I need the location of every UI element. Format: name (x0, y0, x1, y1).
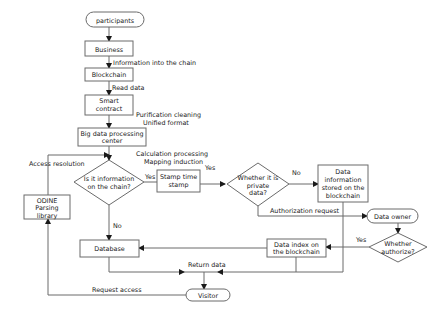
smart-contract-node: Smart contract (85, 95, 133, 115)
data-index-node: Data index on the blockchain (267, 239, 326, 257)
yes-onchain-label: Yes (144, 173, 156, 181)
odine-node: ODINE Parsing library (24, 195, 70, 220)
return-data-label: Return data (188, 261, 226, 269)
yes-stamp-label: Yes (204, 164, 216, 172)
visitor-label: Visitor (198, 292, 219, 300)
authorize-decision: Whether authorize? (369, 233, 427, 262)
smart-contract-label-2: contract (96, 105, 123, 113)
flowchart: participants Business Information into t… (0, 0, 446, 321)
smart-contract-label-1: Smart (99, 97, 119, 105)
odine-label-3: library (37, 212, 58, 220)
purification-label-1: Purification cleaning (136, 111, 201, 119)
blockchain-label: Blockchain (92, 71, 127, 79)
calculation-label-1: Calculation processing (136, 150, 208, 158)
info-into-chain-label: Information into the chain (113, 59, 196, 67)
stored-label-1: Data (335, 168, 350, 176)
calculation-label-2: Mapping induction (144, 158, 203, 166)
business-node: Business (85, 41, 133, 56)
stamp-label-2: stamp (168, 181, 188, 189)
read-data-label: Read data (112, 84, 145, 92)
access-resolution-label: Access resolution (29, 160, 85, 168)
arrow-database-return (109, 257, 184, 272)
stored-node: Data information stored on the blockchai… (318, 165, 368, 202)
participants-node: participants (86, 12, 144, 27)
no-private-label: No (292, 169, 301, 177)
database-label: Database (94, 245, 125, 253)
authorization-request-label: Authorization request (270, 207, 340, 215)
stored-label-3: stored on the (322, 184, 365, 192)
business-label: Business (95, 46, 124, 54)
data-index-label-2: the blockchain (273, 248, 320, 256)
is-on-chain-label-1: Is it information (84, 175, 134, 183)
is-on-chain-label-2: on the chain? (87, 183, 130, 191)
no-onchain-label: No (113, 222, 122, 230)
visitor-node: Visitor (186, 289, 230, 301)
is-private-decision: Whether it is private data? (227, 163, 289, 206)
participants-label: participants (96, 17, 135, 25)
stamp-node: Stamp time stamp (157, 170, 200, 192)
big-data-node: Big data processing center (78, 128, 146, 146)
request-access-label: Request access (92, 286, 142, 294)
big-data-label-2: center (102, 137, 123, 145)
data-owner-node: Data owner (367, 209, 418, 223)
yes-authorize-label: Yes (355, 236, 367, 244)
is-private-label-3: data? (249, 189, 267, 197)
stamp-label-1: Stamp time (160, 173, 197, 181)
data-owner-label: Data owner (374, 213, 411, 221)
stored-label-2: information (325, 176, 362, 184)
blockchain-node: Blockchain (85, 68, 133, 81)
purification-label-2: Unified format (143, 119, 189, 127)
stored-label-4: blockchain (326, 192, 360, 200)
database-node: Database (80, 240, 139, 257)
authorize-label-2: authorize? (381, 248, 415, 256)
authorize-label-1: Whether (384, 240, 412, 248)
